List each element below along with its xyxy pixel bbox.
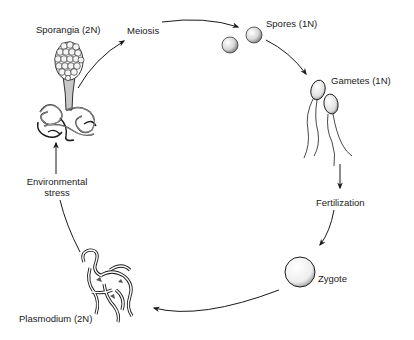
label-environmental-stress-line2: stress <box>22 187 92 198</box>
arrow-spores-to-gametes <box>266 40 306 74</box>
label-zygote: Zygote <box>318 273 347 284</box>
life-cycle-diagram <box>0 0 414 340</box>
sporangium-illustration <box>38 42 96 141</box>
arrow-fertilization-to-zygote <box>320 210 334 245</box>
label-sporangia: Sporangia (2N) <box>36 24 100 35</box>
plasmodium-illustration <box>83 250 132 322</box>
label-environmental-stress-line1: Environmental <box>22 176 92 187</box>
zygote-illustration <box>285 257 315 287</box>
line-plasmodium-to-stress <box>60 200 80 252</box>
label-fertilization: Fertilization <box>316 197 365 208</box>
gametes-illustration <box>304 79 352 166</box>
label-plasmodium: Plasmodium (2N) <box>19 313 92 324</box>
arrow-meiosis-to-spores <box>162 20 238 27</box>
label-environmental-stress: Environmental stress <box>22 176 92 198</box>
label-spores: Spores (1N) <box>266 18 317 29</box>
label-gametes: Gametes (1N) <box>331 75 391 86</box>
label-meiosis: Meiosis <box>127 25 159 36</box>
arrow-sporangia-to-meiosis <box>78 41 124 88</box>
spores-illustration <box>222 27 262 53</box>
arrow-zygote-to-plasmodium <box>154 290 279 311</box>
